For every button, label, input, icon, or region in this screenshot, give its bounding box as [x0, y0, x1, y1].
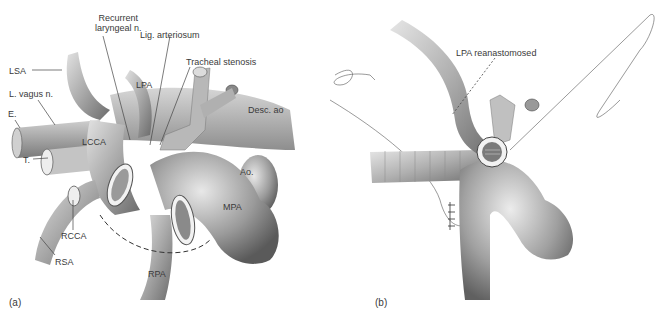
label-lpa-reanastomosed: LPA reanastomosed: [456, 48, 536, 58]
label-lcca: LCCA: [82, 137, 106, 147]
label-l-vagus: L. vagus n.: [9, 89, 53, 99]
panel-b-tag: (b): [375, 297, 387, 308]
label-lpa: LPA: [136, 80, 152, 90]
label-lsa: LSA: [9, 66, 26, 76]
label-lig-arteriosum: Lig. arteriosum: [140, 30, 200, 40]
label-esophagus: E.: [8, 109, 17, 119]
panel-a-illustration: Recurrentlaryngeal n. Lig. arteriosum Tr…: [0, 0, 330, 317]
label-recurrent-line2: laryngeal n.: [95, 23, 142, 33]
label-recurrent-line1: Recurrent: [99, 13, 139, 23]
panel-b-illustration: LPA reanastomosed (b): [330, 0, 664, 317]
label-mpa: MPA: [223, 202, 242, 212]
label-rcca: RCCA: [61, 231, 87, 241]
label-recurrent-laryngeal: Recurrentlaryngeal n.: [95, 13, 142, 33]
label-rsa: RSA: [55, 257, 74, 267]
label-ao: Ao.: [240, 167, 254, 177]
panel-a-tag: (a): [9, 297, 21, 308]
label-tracheal-stenosis: Tracheal stenosis: [186, 57, 256, 67]
label-desc-ao: Desc. ao: [248, 105, 284, 115]
label-trachea: T.: [23, 155, 30, 165]
label-rpa: RPA: [148, 269, 166, 279]
